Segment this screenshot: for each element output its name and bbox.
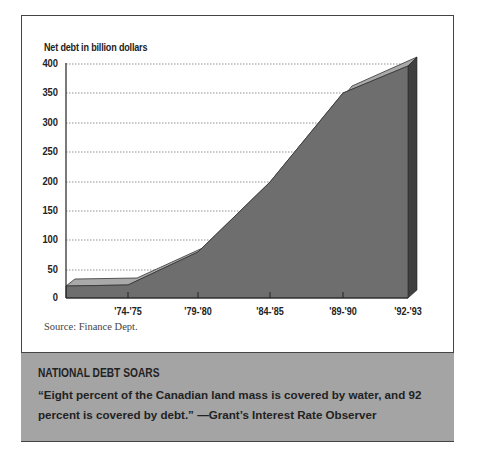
x-tick-79-80: '79-'80 [178, 305, 219, 317]
x-tick-84-85: '84-'85 [250, 305, 291, 317]
x-tick-74-75: '74-'75 [108, 305, 149, 317]
caption-box: NATIONAL DEBT SOARS “Eight percent of th… [21, 352, 454, 441]
x-tick-92-93: '92-'93 [388, 305, 429, 317]
caption-title: NATIONAL DEBT SOARS [38, 366, 159, 380]
x-tick-89-90: '89-'90 [323, 305, 364, 317]
source-note: Source: Finance Dept. [44, 321, 138, 332]
caption-quote: “Eight percent of the Canadian land mass… [38, 385, 443, 425]
area-side-face [408, 57, 417, 298]
